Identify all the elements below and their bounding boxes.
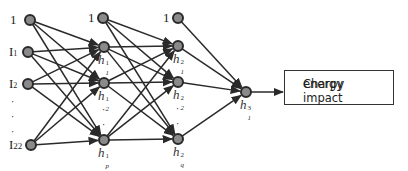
connection-edge	[109, 139, 172, 140]
connection-edge	[109, 46, 172, 47]
input-node-3	[26, 140, 36, 150]
hidden2-bias-node	[173, 13, 183, 23]
hidden1-nodep-label: h1p	[98, 146, 110, 159]
input-i22-label: I22	[9, 138, 22, 151]
hidden1-node2-label: h12	[98, 89, 110, 102]
input-ellipsis-3: ·	[11, 127, 14, 137]
hidden2-node1-label: h21	[173, 52, 185, 65]
connection-edge	[36, 140, 98, 144]
hidden2-node-2	[173, 134, 183, 144]
connection-edge	[107, 21, 174, 78]
hidden2-node-0	[173, 41, 183, 51]
output-node	[241, 87, 251, 97]
output-target-box: Charpy impactenergy	[284, 70, 394, 105]
hidden2-nodeq-label: h2q	[173, 145, 185, 158]
input-ellipsis-1: ·	[11, 97, 14, 107]
connection-edge	[106, 22, 175, 134]
connection-edge	[35, 87, 100, 142]
hidden2-node2-label: h22	[173, 88, 185, 101]
hidden2-ellipsis-2: ·	[176, 119, 179, 129]
connection-edge	[35, 22, 99, 45]
input-node-2	[23, 79, 33, 89]
input-node-0	[25, 15, 35, 25]
hidden1-node1-label: h11	[98, 53, 110, 66]
connection-edge	[182, 95, 241, 136]
input-ellipsis-2: ·	[11, 112, 14, 122]
connection-edge	[109, 82, 172, 83]
hidden1-node-0	[99, 42, 109, 52]
input-i2-label: I2	[9, 77, 17, 90]
hidden2-bias-label: 1	[163, 11, 170, 24]
connection-edge	[183, 83, 240, 91]
hidden1-bias-label: 1	[88, 11, 95, 24]
hidden1-ellipsis-1: ·	[102, 105, 105, 115]
connections	[31, 20, 283, 145]
hidden1-bias-node	[98, 13, 108, 23]
hidden1-node-1	[99, 78, 109, 88]
nodes	[23, 13, 251, 150]
input-node-1	[23, 47, 33, 57]
connection-edge	[33, 83, 98, 84]
hidden2-node-1	[173, 77, 183, 87]
connection-edge	[33, 24, 101, 135]
hidden1-ellipsis-2: ·	[102, 120, 105, 130]
hidden2-ellipsis-1: ·	[176, 104, 179, 114]
hidden1-node-2	[99, 135, 109, 145]
input-i1-label: I1	[9, 45, 17, 58]
output-node-label: h31	[240, 98, 252, 111]
input-bias-label: 1	[10, 13, 17, 26]
